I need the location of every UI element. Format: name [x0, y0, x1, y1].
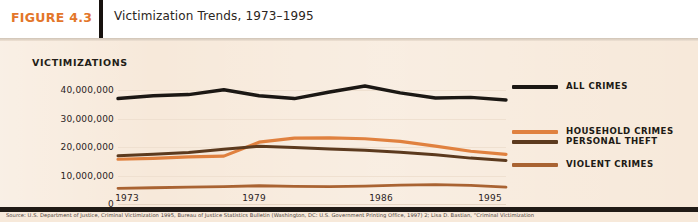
series-line-violent-crimes: [118, 185, 506, 189]
y-tick-label: 10,000,000: [60, 171, 114, 181]
x-tick-label: 1979: [242, 193, 266, 203]
legend-swatch-violent-crimes: [512, 163, 558, 167]
figure-number-label: FIGURE 4.3: [11, 10, 92, 25]
y-axis-title: VICTIMIZATIONS: [32, 57, 128, 68]
figure-header: FIGURE 4.3 Victimization Trends, 1973–19…: [0, 0, 698, 38]
figure-container: FIGURE 4.3 Victimization Trends, 1973–19…: [0, 0, 698, 222]
x-tick-label: 1995: [478, 193, 502, 203]
legend-label-household-crimes: HOUSEHOLD CRIMES: [566, 126, 674, 137]
plot-area: [118, 69, 506, 187]
legend-label-violent-crimes: VIOLENT CRIMES: [566, 159, 654, 170]
chart-legend: ALL CRIMES HOUSEHOLD CRIMES PERSONAL THE…: [512, 41, 698, 207]
y-axis-labels: 40,000,000 30,000,000 20,000,000 10,000,…: [18, 69, 114, 187]
legend-swatch-all-crimes: [512, 85, 558, 89]
header-vertical-divider: [99, 0, 103, 38]
gridline-zero: [118, 204, 506, 205]
x-tick-label: 1986: [369, 193, 393, 203]
y-tick-label: 30,000,000: [60, 114, 114, 124]
legend-label-all-crimes: ALL CRIMES: [566, 81, 628, 92]
y-tick-label: 40,000,000: [60, 85, 114, 95]
source-note: Source: U.S. Department of Justice, Crim…: [6, 212, 698, 218]
legend-swatch-household-crimes: [512, 130, 558, 134]
x-tick-label: 1973: [115, 193, 139, 203]
figure-title: Victimization Trends, 1973–1995: [114, 9, 314, 23]
y-tick-label: 20,000,000: [60, 142, 114, 152]
legend-label-personal-theft: PERSONAL THEFT: [566, 136, 658, 147]
chart-lines: [118, 69, 506, 187]
series-line-all-crimes: [118, 86, 506, 100]
legend-swatch-personal-theft: [512, 140, 558, 144]
